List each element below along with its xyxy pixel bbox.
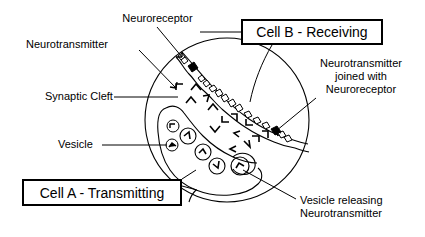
callout-leader-lines [102, 27, 316, 199]
label-nt-joined-line3: Neuroreceptor [300, 83, 422, 96]
neuroreceptor-sites [178, 53, 292, 142]
leader-cell-b-down [250, 45, 272, 102]
vesicles [166, 120, 249, 175]
label-neurotransmitter: Neurotransmitter [26, 38, 108, 51]
leader-neurotransmitter [139, 50, 176, 88]
label-vesicle-releasing-line2: Neurotransmitter [300, 207, 382, 220]
label-nt-joined-line2: joined with [300, 70, 422, 83]
leader-cell-a-up [182, 170, 196, 179]
label-vesicle-releasing-line1: Vesicle releasing [300, 194, 383, 207]
label-synaptic-cleft: Synaptic Cleft [45, 90, 113, 103]
label-neuroreceptor: Neuroreceptor [100, 12, 215, 25]
label-vesicle: Vesicle [58, 138, 93, 151]
cell-boundary-circle [145, 38, 309, 202]
cell-b-label-box[interactable]: Cell B - Receiving [241, 19, 383, 45]
leader-nt-joined [276, 98, 316, 131]
synapse-diagram-figure: Cell B - Receiving Cell A - Transmitting… [0, 0, 425, 237]
leader-neuroreceptor [157, 27, 182, 57]
cell-a-label-box[interactable]: Cell A - Transmitting [22, 179, 182, 206]
label-nt-joined-line1: Neurotransmitter [300, 57, 422, 70]
